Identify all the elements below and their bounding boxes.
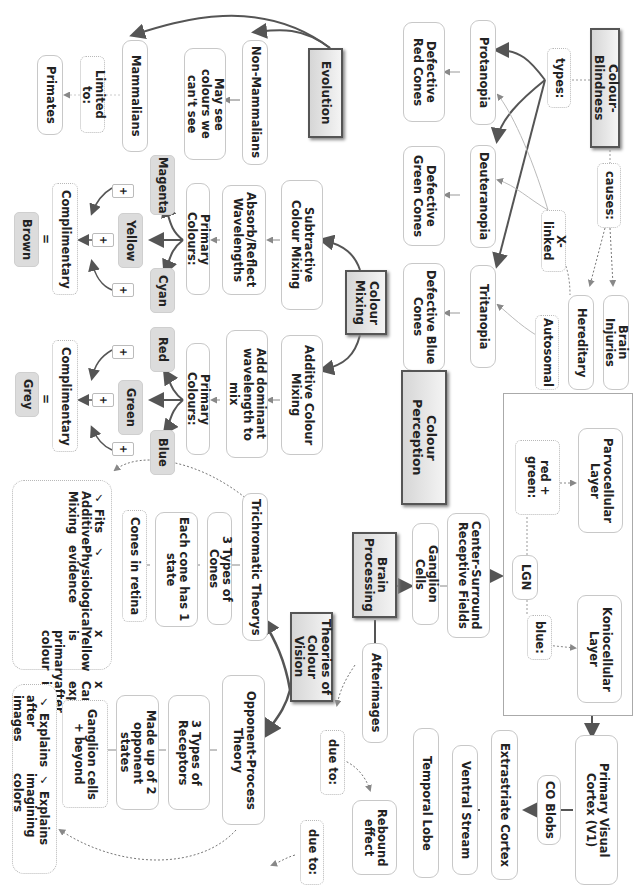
parvocellular-node[interactable]: Parvocellular Layer [578,428,623,533]
evaluation-item: ✓ Explains imagining colors [10,773,50,863]
protanopia-node[interactable]: Protanopia [470,20,496,125]
primates-node[interactable]: Primates [37,55,63,135]
theories-of-colour-vision-node[interactable]: Theories of Colour Vision [290,612,333,702]
concept-map: Colour-Blindness types: causes: Protanop… [0,0,633,892]
blue-label: blue: [527,615,552,660]
equals-sign: = [38,230,52,248]
opponent-process-theory-node[interactable]: Opponent-Process Theory [222,675,265,825]
koniocellular-node[interactable]: Koniocellular Layer [577,595,622,703]
cones-in-retina-label: Cones in retina [122,510,147,622]
types-label: types: [547,48,571,108]
due-to-label: due to: [320,730,345,795]
plus-sign: + [112,345,134,359]
plus-sign: + [112,442,134,456]
brain-processing-node[interactable]: Brain Processing [352,532,397,618]
colour-mixing-node[interactable]: Colour Mixing [345,270,387,335]
causes-label: causes: [597,163,621,228]
evaluation-item: ✓ Fits Additive Mixing [65,491,105,545]
red-green-label: red + green: [515,440,560,515]
extrastriate-cortex-node[interactable]: Extrastriate Cortex [491,730,518,880]
plus-sign: + [112,184,134,198]
grey-result[interactable]: Grey [15,372,39,417]
evaluation-item: ✓ Explains after images [10,695,50,773]
temporal-lobe-node[interactable]: Temporal Lobe [413,728,439,878]
rebound-effect-node[interactable]: Rebound effect [352,800,397,875]
each-cone-node[interactable]: Each cone has 1 state [155,512,198,627]
non-mammalians-node[interactable]: Non-Mammalians [242,40,268,165]
additive-mixing-node[interactable]: Additive Colour Mixing [281,335,323,455]
three-types-receptors-node[interactable]: 3 Types of Receptors [168,695,210,810]
colour-blindness-node[interactable]: Colour-Blindness [590,28,620,148]
plus-sign: + [92,233,114,247]
plus-sign: + [112,283,134,297]
limited-to-label: Limited to: [80,56,105,133]
center-surround-node[interactable]: Center-Surround Receptive Fields [447,513,490,638]
ganglion-cells-node[interactable]: Ganglion Cells [412,523,439,625]
absorb-reflect-node[interactable]: Absorb/Reflect Wavelengths [222,185,266,295]
trichromatic-evaluation-list: ✓ Fits Additive Mixing ✓ Physiological e… [12,480,112,670]
yellow-swatch[interactable]: Yellow [118,213,143,268]
add-dominant-node[interactable]: Add dominant wavelength to mix [226,330,268,458]
lgn-node[interactable]: LGN [512,555,538,600]
opponent-evaluation-list: ✓ Explains after images ✓ Explains imagi… [12,684,57,874]
red-swatch[interactable]: Red [150,327,175,372]
evaluation-item: ✓ Physiological evidence [65,545,105,630]
colour-perception-title[interactable]: Colour Perception [401,370,447,505]
ventral-stream-node[interactable]: Ventral Stream [452,745,478,875]
due-to-label: due to: [300,820,324,885]
mammalians-node[interactable]: Mammalians [122,40,148,152]
subtractive-primary-label: Primary Colours: [186,183,210,295]
made-up-of-two-node[interactable]: Made up of 2 opponent states [116,695,159,810]
green-swatch[interactable]: Green [118,380,143,435]
magenta-swatch[interactable]: Magenta [150,155,175,215]
additive-complimentary-label: Complimentary [52,340,78,452]
brown-result[interactable]: Brown [14,212,39,267]
brain-injuries-node[interactable]: Brain Injuries [603,295,629,390]
evaluation-item: x Yellow is primary colour [39,630,105,681]
primary-visual-cortex-node[interactable]: Primary Visual Cortex (V1) [575,735,618,885]
co-blobs-node[interactable]: CO Blobs [537,775,561,845]
hereditary-node[interactable]: Hereditary [568,295,594,390]
defective-blue-cones-node[interactable]: Defective Blue Cones [403,263,445,371]
may-see-colours-node[interactable]: May see colours we can't see [184,48,226,160]
x-linked-label: X-linked [541,210,566,272]
subtractive-complimentary-label: Complimentary [52,183,78,295]
three-types-cones-node[interactable]: 3 Types of Cones [207,512,232,625]
trichromatic-theory-node[interactable]: Trichromatic Theorys [242,493,268,641]
ganglion-beyond-label: Ganglion cells + beyond [62,700,108,808]
subtractive-mixing-node[interactable]: Subtractive Colour Mixing [281,180,323,310]
afterimages-node[interactable]: Afterimages [362,643,388,743]
blue-swatch[interactable]: Blue [150,430,175,475]
evolution-node[interactable]: Evolution [308,48,343,138]
autosomal-label: Autosomal [535,315,559,390]
cyan-swatch[interactable]: Cyan [150,268,175,313]
defective-red-cones-node[interactable]: Defective Red Cones [403,22,445,122]
plus-sign: + [92,393,114,407]
defective-green-cones-node[interactable]: Defective Green Cones [403,146,445,246]
additive-primary-label: Primary Colours: [186,343,210,455]
equals-sign: = [38,390,52,408]
tritanopia-node[interactable]: Tritanopia [470,265,496,368]
deuteranopia-node[interactable]: Deuteranopia [470,145,496,248]
